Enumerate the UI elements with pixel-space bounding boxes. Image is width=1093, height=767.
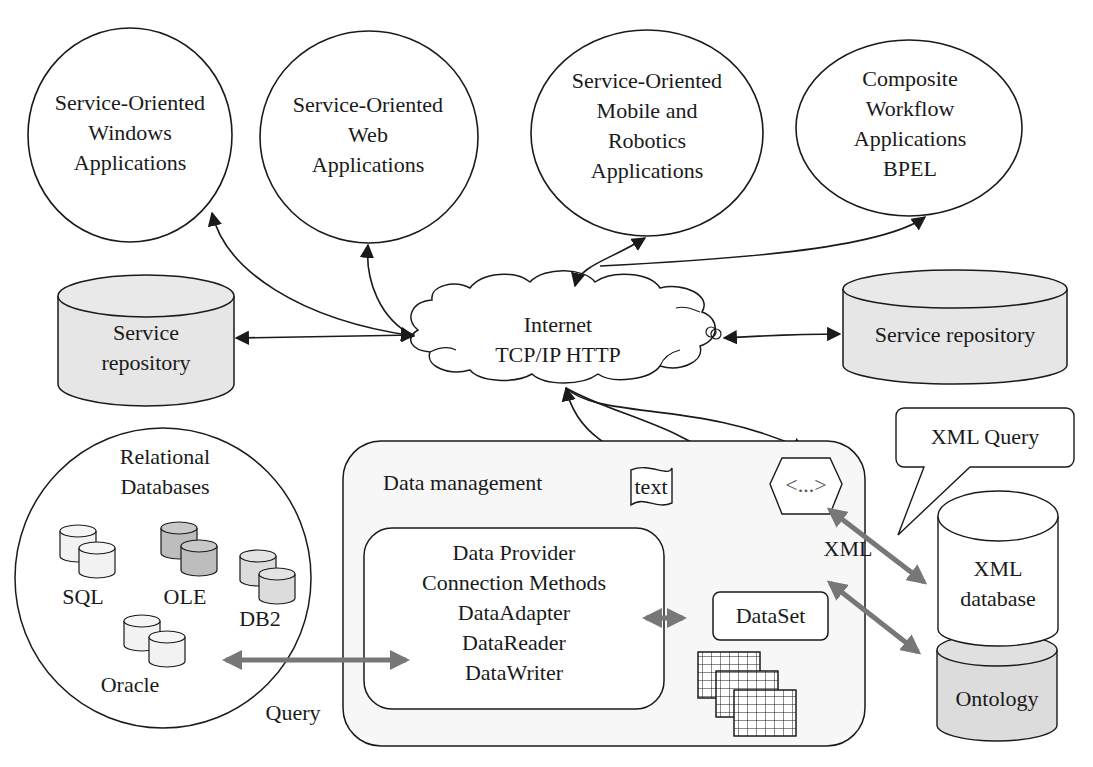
- xml-query-label: XML Query: [896, 422, 1074, 452]
- label-line: repository: [46, 348, 246, 378]
- label-line: DataReader: [364, 628, 664, 658]
- app-windows-label: Service-Oriented Windows Applications: [30, 88, 230, 178]
- label-line: Service-Oriented: [547, 66, 747, 96]
- xml-tag-label: <...>: [770, 470, 842, 500]
- label-line: Databases: [100, 472, 230, 502]
- app-workflow-label: Composite Workflow Applications BPEL: [810, 64, 1010, 184]
- label-line: Service: [46, 318, 246, 348]
- app-mobile-label: Service-Oriented Mobile and Robotics App…: [547, 66, 747, 186]
- label-line: BPEL: [810, 154, 1010, 184]
- label-line: Connection Methods: [364, 568, 664, 598]
- label-line: Composite: [810, 64, 1010, 94]
- label-line: Relational: [100, 442, 230, 472]
- label-line: DataWriter: [364, 658, 664, 688]
- label-line: Service-Oriented: [30, 88, 230, 118]
- db-label-sql: SQL: [58, 582, 108, 612]
- data-management-title: Data management: [383, 468, 583, 498]
- label-line: DataAdapter: [364, 598, 664, 628]
- db-label-db2: DB2: [235, 604, 285, 634]
- label-line: Mobile and: [547, 96, 747, 126]
- dataset-label: DataSet: [713, 601, 828, 631]
- label-line: TCP/IP HTTP: [468, 340, 648, 370]
- db-label-oracle: Oracle: [95, 670, 165, 700]
- label-line: Applications: [268, 150, 468, 180]
- label-line: database: [938, 584, 1058, 614]
- relational-databases-title: Relational Databases: [100, 442, 230, 502]
- db-label-ole: OLE: [160, 582, 210, 612]
- internet-label: Internet TCP/IP HTTP: [468, 310, 648, 370]
- label-line: Applications: [810, 124, 1010, 154]
- xml-database-label: XML database: [938, 554, 1058, 614]
- text-document-label: text: [628, 472, 674, 502]
- label-line: Service-Oriented: [268, 90, 468, 120]
- service-repository-left-label: Service repository: [46, 318, 246, 378]
- ontology-label: Ontology: [937, 684, 1057, 714]
- service-repository-right-label: Service repository: [855, 320, 1055, 350]
- xml-label: XML: [818, 534, 878, 564]
- label-line: Web: [268, 120, 468, 150]
- label-line: Workflow: [810, 94, 1010, 124]
- label-line: Windows: [30, 118, 230, 148]
- label-line: XML: [938, 554, 1058, 584]
- label-line: Applications: [547, 156, 747, 186]
- label-line: Robotics: [547, 126, 747, 156]
- app-web-label: Service-Oriented Web Applications: [268, 90, 468, 180]
- label-line: Data Provider: [364, 538, 664, 568]
- label-line: Applications: [30, 148, 230, 178]
- data-provider-label: Data Provider Connection Methods DataAda…: [364, 538, 664, 688]
- label-line: Internet: [468, 310, 648, 340]
- query-label: Query: [258, 698, 328, 728]
